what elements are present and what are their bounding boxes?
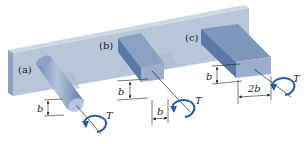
svg-text:2b: 2b — [247, 83, 261, 94]
svg-text:T: T — [195, 95, 203, 106]
svg-text:T: T — [106, 110, 114, 121]
dimension-b-width: b — [152, 99, 168, 125]
svg-text:b: b — [206, 71, 212, 82]
torque-b-icon: T — [170, 95, 203, 117]
label-a: (a) — [18, 64, 32, 75]
svg-text:b: b — [37, 103, 43, 114]
svg-text:b: b — [157, 106, 163, 117]
svg-text:b: b — [118, 86, 124, 97]
torque-a-icon: T — [82, 110, 114, 132]
label-c: (c) — [185, 32, 199, 43]
torsion-bars-diagram: (a) b T (b) b b T — [0, 0, 306, 144]
plate-left-face — [8, 50, 13, 96]
label-b: (b) — [99, 40, 113, 51]
dimension-c-width: 2b — [238, 76, 271, 104]
dimension-b-height: b — [117, 79, 148, 100]
torque-c-icon: T — [270, 73, 301, 95]
dimension-a-height: b — [37, 99, 64, 116]
svg-text:T: T — [293, 73, 301, 84]
